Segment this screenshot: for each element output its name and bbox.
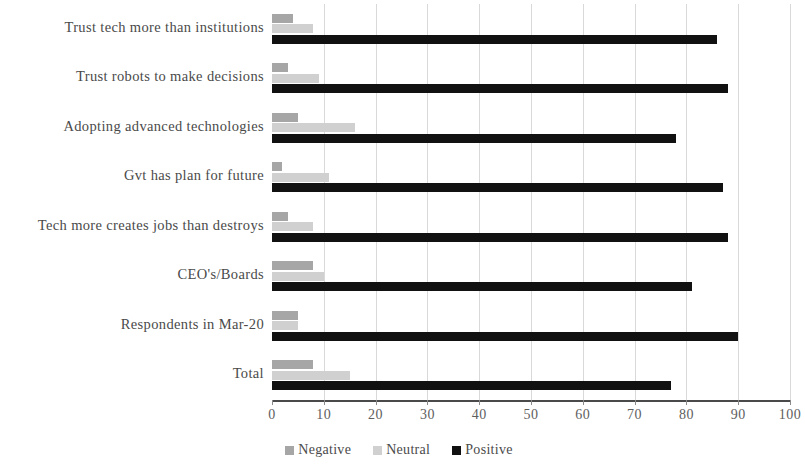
- bar-positive: [272, 233, 728, 242]
- bar-positive: [272, 381, 671, 390]
- category-label: Tech more creates jobs than destroys: [0, 217, 264, 234]
- legend-swatch-negative-icon: [285, 446, 294, 455]
- gridline: [790, 4, 791, 400]
- legend-label: Neutral: [386, 442, 430, 458]
- x-axis-tick-label: 40: [459, 407, 499, 423]
- x-axis-tick: [790, 400, 791, 405]
- x-axis-tick-label: 100: [770, 407, 805, 423]
- x-axis-tick-label: 30: [407, 407, 447, 423]
- x-axis-tick-label: 0: [252, 407, 292, 423]
- bar-negative: [272, 63, 288, 72]
- bar-negative: [272, 360, 313, 369]
- x-axis-tick-label: 80: [666, 407, 706, 423]
- x-axis-tick: [324, 400, 325, 405]
- bar-positive: [272, 282, 692, 291]
- legend-swatch-neutral-icon: [373, 446, 382, 455]
- bar-positive: [272, 84, 728, 93]
- x-axis-tick-label: 60: [563, 407, 603, 423]
- bar-positive: [272, 134, 676, 143]
- category-label: CEO's/Boards: [0, 266, 264, 283]
- category-label: Trust robots to make decisions: [0, 68, 264, 85]
- bar-neutral: [272, 321, 298, 330]
- x-axis-tick: [427, 400, 428, 405]
- x-axis-tick-label: 20: [356, 407, 396, 423]
- category-label: Trust tech more than institutions: [0, 19, 264, 36]
- bar-neutral: [272, 74, 319, 83]
- legend-item-negative: Negative: [285, 442, 351, 458]
- bar-neutral: [272, 371, 350, 380]
- bar-positive: [272, 332, 738, 341]
- bar-neutral: [272, 24, 313, 33]
- bar-positive: [272, 35, 717, 44]
- x-axis-tick: [376, 400, 377, 405]
- legend-label: Negative: [298, 442, 351, 458]
- bar-neutral: [272, 173, 329, 182]
- x-axis-tick-label: 90: [718, 407, 758, 423]
- bar-negative: [272, 261, 313, 270]
- x-axis-tick: [738, 400, 739, 405]
- bar-negative: [272, 311, 298, 320]
- bar-negative: [272, 162, 282, 171]
- legend-item-neutral: Neutral: [373, 442, 430, 458]
- chart-legend: NegativeNeutralPositive: [0, 442, 798, 458]
- x-axis-tick: [531, 400, 532, 405]
- bar-negative: [272, 212, 288, 221]
- bar-negative: [272, 14, 293, 23]
- x-axis-tick: [272, 400, 273, 405]
- legend-swatch-positive-icon: [452, 446, 461, 455]
- bar-neutral: [272, 123, 355, 132]
- gridline: [738, 4, 739, 400]
- x-axis-tick: [583, 400, 584, 405]
- bar-negative: [272, 113, 298, 122]
- x-axis-tick: [479, 400, 480, 405]
- x-axis-tick-label: 50: [511, 407, 551, 423]
- legend-item-positive: Positive: [452, 442, 513, 458]
- category-label: Gvt has plan for future: [0, 167, 264, 184]
- legend-label: Positive: [465, 442, 513, 458]
- category-label: Respondents in Mar-20: [0, 316, 264, 333]
- x-axis-tick-label: 10: [304, 407, 344, 423]
- plot-area: [272, 4, 790, 400]
- category-label: Total: [0, 365, 264, 382]
- x-axis-tick: [635, 400, 636, 405]
- x-axis-tick-label: 70: [615, 407, 655, 423]
- bar-neutral: [272, 222, 313, 231]
- bar-positive: [272, 183, 723, 192]
- bar-neutral: [272, 272, 324, 281]
- x-axis-tick: [686, 400, 687, 405]
- category-label: Adopting advanced technologies: [0, 118, 264, 135]
